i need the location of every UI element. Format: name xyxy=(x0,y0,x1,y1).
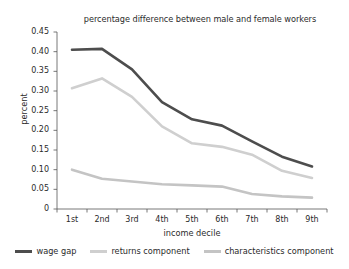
legend-label: returns component xyxy=(111,246,189,256)
chart-container: percentage difference between male and f… xyxy=(0,0,349,269)
plot-area xyxy=(0,0,349,269)
legend-label: characteristics component xyxy=(225,246,334,256)
legend-label: wage gap xyxy=(36,246,76,256)
legend-swatch-icon xyxy=(90,250,107,253)
chart-legend: wage gapreturns componentcharacteristics… xyxy=(0,246,349,256)
legend-item[interactable]: returns component xyxy=(90,246,189,256)
series-line xyxy=(72,170,312,198)
series-line xyxy=(72,78,312,178)
legend-swatch-icon xyxy=(204,250,221,253)
series-line xyxy=(72,49,312,167)
legend-swatch-icon xyxy=(15,250,32,253)
legend-item[interactable]: wage gap xyxy=(15,246,76,256)
legend-item[interactable]: characteristics component xyxy=(204,246,334,256)
data-series-group xyxy=(72,49,312,198)
